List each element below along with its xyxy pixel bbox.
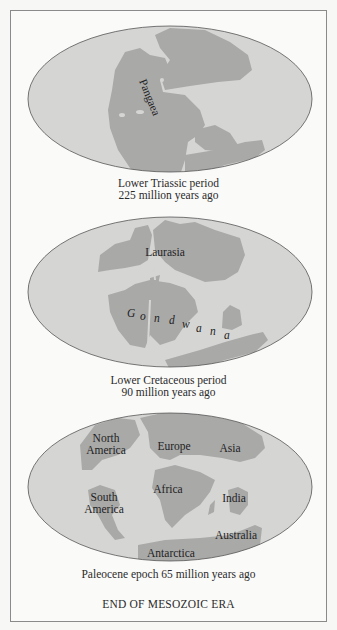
- svg-text:n: n: [154, 312, 160, 324]
- label-north-america: North: [93, 432, 120, 444]
- caption-paleocene: Paleocene epoch 65 million years ago: [0, 568, 337, 580]
- label-antarctica: Antarctica: [147, 547, 195, 559]
- svg-text:d: d: [169, 314, 175, 326]
- label-asia: Asia: [219, 442, 240, 454]
- svg-text:G: G: [127, 307, 136, 319]
- footer-title: END OF MESOZOIC ERA: [0, 598, 337, 610]
- map-lower-cretaceous: Laurasia G o n d w a n a: [0, 200, 337, 380]
- label-australia: Australia: [215, 529, 257, 541]
- map-paleocene: North America Europe Asia Africa South A…: [0, 400, 337, 570]
- caption-age: 90 million years ago: [0, 386, 337, 398]
- svg-text:a: a: [224, 329, 230, 341]
- map-lower-triassic: Pangaea: [0, 0, 337, 180]
- svg-text:n: n: [210, 325, 216, 337]
- caption-lower-cretaceous: Lower Cretaceous period 90 million years…: [0, 374, 337, 398]
- svg-text:America: America: [86, 444, 126, 456]
- svg-text:a: a: [196, 322, 202, 334]
- caption-lower-triassic: Lower Triassic period 225 million years …: [0, 177, 337, 201]
- label-europe: Europe: [157, 440, 190, 453]
- label-laurasia: Laurasia: [145, 246, 185, 258]
- svg-text:w: w: [182, 318, 190, 330]
- label-south-america: South: [91, 491, 118, 503]
- label-africa: Africa: [153, 483, 182, 495]
- svg-text:America: America: [84, 503, 124, 515]
- caption-period: Lower Cretaceous period: [0, 374, 337, 386]
- caption-period: Lower Triassic period: [0, 177, 337, 189]
- label-india: India: [222, 492, 246, 504]
- svg-text:o: o: [140, 310, 146, 322]
